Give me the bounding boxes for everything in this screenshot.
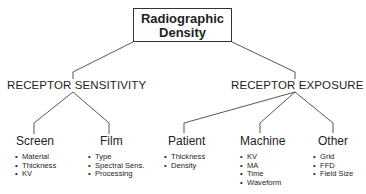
list-item: Density xyxy=(164,162,205,171)
node-film: Film xyxy=(100,134,123,148)
root-label-line2: Density xyxy=(134,26,231,40)
node-screen: Screen xyxy=(16,134,54,148)
machine-factors-list: KV MA Time Waveform xyxy=(240,153,281,187)
root-label-line1: Radiographic xyxy=(134,12,231,26)
connector-exposure-patient xyxy=(184,92,295,133)
screen-factors-list: Material Thickness KV xyxy=(15,153,56,179)
connector-sensitivity-screen xyxy=(34,92,73,134)
category-receptor-exposure: RECEPTOR EXPOSURE xyxy=(231,79,364,91)
connector-sensitivity-film xyxy=(73,92,109,134)
connector-root-sensitivity xyxy=(73,42,133,79)
node-machine: Machine xyxy=(240,134,285,148)
connector-exposure-other xyxy=(295,92,333,133)
connector-root-exposure xyxy=(232,42,295,79)
root-node-radiographic-density: Radiographic Density xyxy=(133,8,232,42)
list-item: KV xyxy=(15,170,56,179)
node-patient: Patient xyxy=(168,134,205,148)
list-item: Waveform xyxy=(240,179,281,188)
film-factors-list: Type Spectral Sens. Processing xyxy=(88,153,144,179)
other-factors-list: Grid FFD Field Size xyxy=(313,153,353,179)
list-item: Field Size xyxy=(313,170,353,179)
list-item: Processing xyxy=(88,170,144,179)
patient-factors-list: Thickness Density xyxy=(164,153,205,170)
connector-exposure-machine xyxy=(260,92,295,133)
category-receptor-sensitivity: RECEPTOR SENSITIVITY xyxy=(7,79,146,91)
node-other: Other xyxy=(318,134,348,148)
